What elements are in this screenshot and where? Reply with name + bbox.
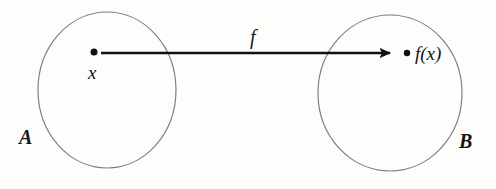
codomain-set-circle <box>318 15 462 171</box>
domain-set-circle <box>38 12 176 168</box>
function-arrow-label: f <box>250 27 256 47</box>
target-point-dot <box>404 50 410 56</box>
domain-set-label: A <box>19 127 32 147</box>
source-point-label: x <box>88 63 96 82</box>
target-point-label: f(x) <box>415 44 441 63</box>
function-mapping-diagram: A B x f(x) f <box>0 0 496 189</box>
codomain-set-label: B <box>459 131 472 151</box>
diagram-canvas <box>0 0 496 189</box>
source-point-dot <box>91 49 98 56</box>
